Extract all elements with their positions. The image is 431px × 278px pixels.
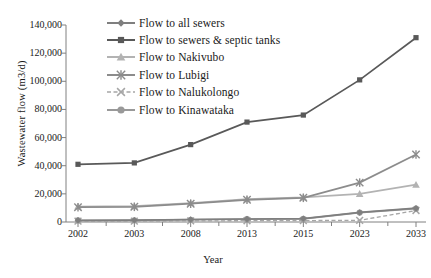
- legend-key-diamond-icon: [106, 16, 136, 30]
- data-point-marker: [117, 106, 124, 113]
- data-point-marker: [117, 19, 124, 26]
- legend-label: Flow to Nalukolongo: [136, 86, 239, 98]
- data-point-marker: [118, 37, 124, 43]
- data-point-marker: [357, 77, 362, 82]
- data-point-marker: [132, 160, 137, 165]
- legend-item[interactable]: Flow to Nakivubo: [106, 49, 280, 66]
- legend-key-x-icon: [106, 85, 136, 99]
- legend-item[interactable]: Flow to sewers & septic tanks: [106, 31, 280, 48]
- diamond-marker: [117, 19, 124, 26]
- square-marker: [413, 35, 418, 40]
- square-marker: [357, 77, 362, 82]
- legend-label: Flow to Nakivubo: [136, 51, 224, 63]
- square-marker: [188, 142, 193, 147]
- square-marker: [132, 160, 137, 165]
- legend-label: Flow to all sewers: [136, 17, 225, 29]
- legend-key-star-icon: [106, 68, 136, 82]
- square-marker: [118, 37, 124, 43]
- data-point-marker: [413, 35, 418, 40]
- circle-marker: [117, 106, 124, 113]
- square-marker: [301, 112, 306, 117]
- legend-item[interactable]: Flow to Kinawataka: [106, 101, 280, 118]
- legend-item[interactable]: Flow to all sewers: [106, 14, 280, 31]
- series-4: [74, 150, 419, 211]
- square-marker: [75, 162, 80, 167]
- legend-item[interactable]: Flow to Nalukolongo: [106, 84, 280, 101]
- legend-key-square-icon: [106, 33, 136, 47]
- data-point-marker: [244, 119, 249, 124]
- legend-label: Flow to Lubigi: [136, 69, 209, 81]
- legend-key-circle-icon: [106, 103, 136, 117]
- legend-item[interactable]: Flow to Lubigi: [106, 66, 280, 83]
- data-point-marker: [412, 150, 419, 159]
- square-marker: [244, 119, 249, 124]
- data-point-marker: [301, 112, 306, 117]
- data-point-marker: [188, 142, 193, 147]
- data-point-marker: [75, 162, 80, 167]
- legend-label: Flow to sewers & septic tanks: [136, 34, 280, 46]
- legend-label: Flow to Kinawataka: [136, 104, 234, 116]
- series-1: [75, 205, 419, 224]
- series-3: [74, 181, 420, 210]
- legend-key-triangle-icon: [106, 50, 136, 64]
- chart-legend: Flow to all sewersFlow to sewers & septi…: [106, 14, 280, 118]
